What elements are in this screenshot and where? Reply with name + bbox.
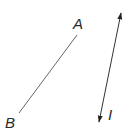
- diagram-canvas: A B I: [0, 0, 133, 131]
- label-current-i: I: [108, 107, 112, 122]
- segment-ab: [19, 35, 77, 113]
- label-b: B: [5, 115, 15, 130]
- label-a: A: [73, 16, 83, 31]
- diagram-svg: [0, 0, 133, 131]
